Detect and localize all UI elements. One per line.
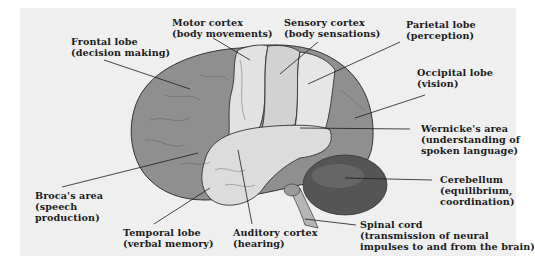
label-function: (body movements) <box>172 28 273 39</box>
label-brocas-area: Broca's area (speech production) <box>35 190 103 223</box>
label-name: Sensory cortex <box>284 17 380 28</box>
sensory-cortex-region <box>262 45 300 130</box>
label-auditory-cortex: Auditory cortex (hearing) <box>233 227 318 249</box>
label-function: (understanding of <box>421 134 520 145</box>
label-function: (body sensations) <box>284 28 380 39</box>
label-function-2: spoken language) <box>421 145 520 156</box>
label-function: (verbal memory) <box>123 238 214 249</box>
label-function: (hearing) <box>233 238 318 249</box>
label-sensory-cortex: Sensory cortex (body sensations) <box>284 17 380 39</box>
label-name: Wernicke's area <box>421 123 520 134</box>
label-frontal-lobe: Frontal lobe (decision making) <box>71 36 170 58</box>
label-spinal-cord: Spinal cord (transmission of neural impu… <box>360 219 535 252</box>
label-function: (vision) <box>417 78 493 89</box>
label-name: Occipital lobe <box>417 67 493 78</box>
label-motor-cortex: Motor cortex (body movements) <box>172 17 273 39</box>
label-cerebellum: Cerebellum (equilibrium, coordination) <box>440 174 515 207</box>
label-occipital-lobe: Occipital lobe (vision) <box>417 67 493 89</box>
label-function-2: production) <box>35 212 103 223</box>
label-temporal-lobe: Temporal lobe (verbal memory) <box>123 227 214 249</box>
label-name: Parietal lobe <box>406 19 476 30</box>
label-function: (decision making) <box>71 47 170 58</box>
label-function-2: impulses to and from the brain) <box>360 241 535 252</box>
label-name: Spinal cord <box>360 219 535 230</box>
label-name: Temporal lobe <box>123 227 214 238</box>
label-function: (transmission of neural <box>360 230 535 241</box>
label-name: Broca's area <box>35 190 103 201</box>
label-function: (equilibrium, <box>440 185 515 196</box>
label-function: (perception) <box>406 30 476 41</box>
label-name: Motor cortex <box>172 17 273 28</box>
label-parietal-lobe: Parietal lobe (perception) <box>406 19 476 41</box>
label-function-2: coordination) <box>440 196 515 207</box>
label-function: (speech <box>35 201 103 212</box>
label-name: Frontal lobe <box>71 36 170 47</box>
label-name: Auditory cortex <box>233 227 318 238</box>
label-name: Cerebellum <box>440 174 515 185</box>
label-wernickes-area: Wernicke's area (understanding of spoken… <box>421 123 520 156</box>
